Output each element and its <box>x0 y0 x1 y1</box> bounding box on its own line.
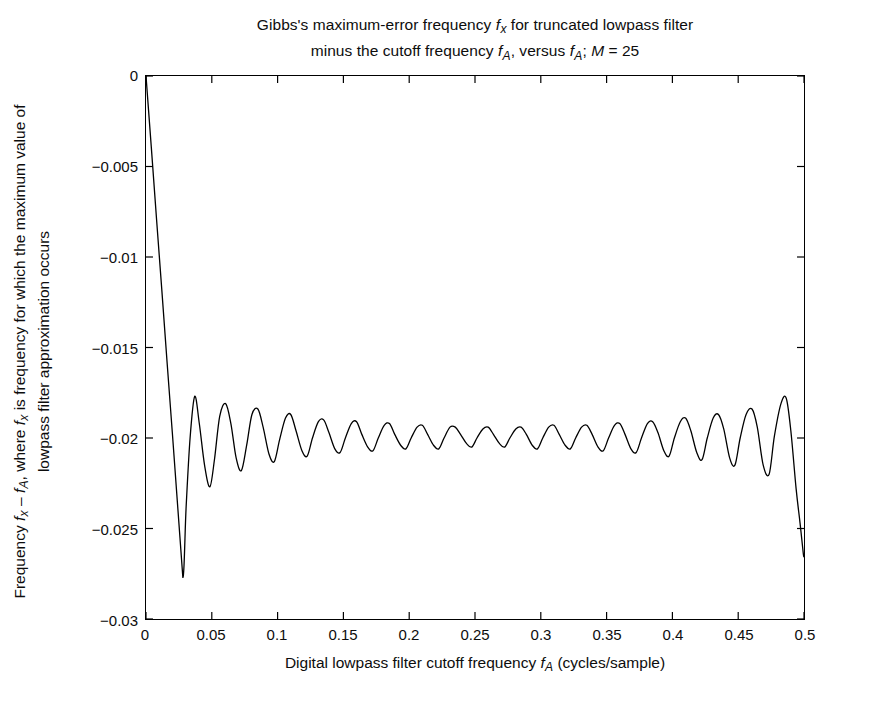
y-tick-label: 0 <box>76 67 138 84</box>
y-axis-label-line-1: Frequency fx – fA, where fx is frequency… <box>10 104 34 598</box>
ylab-mid2: , where <box>11 425 28 480</box>
title-line1-post: for truncated lowpass filter <box>506 16 693 33</box>
x-axis-label: Digital lowpass filter cutoff frequency … <box>145 654 805 674</box>
y-tick-label: −0.01 <box>76 248 138 265</box>
y-axis-label-line-2: lowpass filter approximation occurs <box>34 231 54 472</box>
x-tick-label: 0 <box>141 626 149 643</box>
y-tick-label: −0.025 <box>76 521 138 538</box>
y-tick-label-group: 0−0.005−0.01−0.015−0.02−0.025−0.03 <box>70 75 138 620</box>
y-tick-label: −0.005 <box>76 157 138 174</box>
title-line2-sub1: A <box>503 49 511 63</box>
x-tick-label: 0.25 <box>460 626 489 643</box>
y-axis-label: Frequency fx – fA, where fx is frequency… <box>0 0 64 703</box>
title-line2-var1: f <box>498 42 502 59</box>
title-line2-meq: = 25 <box>604 42 639 59</box>
x-tick-label-group: 00.050.10.150.20.250.30.350.40.450.5 <box>145 626 805 648</box>
x-tick-label: 0.35 <box>592 626 621 643</box>
tick-marks <box>146 76 804 619</box>
x-tick-label: 0.2 <box>399 626 420 643</box>
ylab-post: is frequency for which the maximum value… <box>11 104 28 414</box>
ylab-s1: x <box>17 510 31 516</box>
y-tick-label: −0.015 <box>76 339 138 356</box>
x-tick-label: 0.05 <box>196 626 225 643</box>
x-tick-label: 0.4 <box>663 626 684 643</box>
plot-canvas <box>146 76 804 619</box>
title-line2-mid: , versus <box>511 42 570 59</box>
ylab-v1: f <box>11 517 28 521</box>
xlab-pre: Digital lowpass filter cutoff frequency <box>285 654 541 671</box>
chart-title-line-2: minus the cutoff frequency fA, versus fA… <box>145 40 805 66</box>
ylab-s3: x <box>17 415 31 421</box>
title-line2-post: ; <box>582 42 591 59</box>
ylab-v3: f <box>11 421 28 425</box>
plot-area <box>145 75 805 620</box>
ylab-v2: f <box>11 489 28 493</box>
y-tick-label: −0.03 <box>76 612 138 629</box>
xlab-post: (cycles/sample) <box>553 654 665 671</box>
title-line1-pre: Gibbs's maximum-error frequency <box>257 16 496 33</box>
chart-title-line-1: Gibbs's maximum-error frequency fx for t… <box>145 14 805 40</box>
title-line2-m: M <box>591 42 604 59</box>
data-series-line <box>146 76 804 577</box>
ylab-mid1: – <box>11 493 28 510</box>
x-tick-label: 0.3 <box>531 626 552 643</box>
chart-figure: Gibbs's maximum-error frequency fx for t… <box>0 0 879 703</box>
x-tick-label: 0.1 <box>267 626 288 643</box>
xlab-sub: A <box>545 660 553 674</box>
x-tick-label: 0.45 <box>724 626 753 643</box>
y-tick-label: −0.02 <box>76 430 138 447</box>
ylab-s2: A <box>17 480 31 488</box>
chart-title: Gibbs's maximum-error frequency fx for t… <box>145 14 805 67</box>
ylab-pre: Frequency <box>11 521 28 599</box>
title-line2-pre: minus the cutoff frequency <box>311 42 498 59</box>
x-tick-label: 0.15 <box>328 626 357 643</box>
x-tick-label: 0.5 <box>795 626 816 643</box>
